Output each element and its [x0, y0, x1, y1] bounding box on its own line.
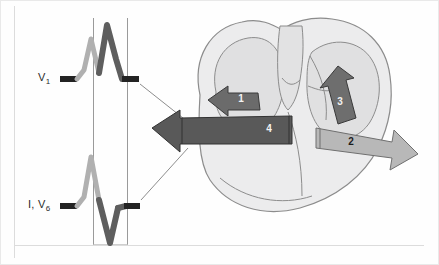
heart-diagram: 1 2 3 4 [150, 0, 439, 265]
ecg-heart-vector-figure: V1 I, V6 [0, 0, 439, 265]
vector-4-number: 4 [263, 123, 275, 134]
heart-cross-section [150, 0, 439, 265]
vector-1-number: 1 [235, 93, 247, 104]
vector-2-number: 2 [345, 136, 357, 147]
vector-3-number: 3 [334, 96, 346, 107]
